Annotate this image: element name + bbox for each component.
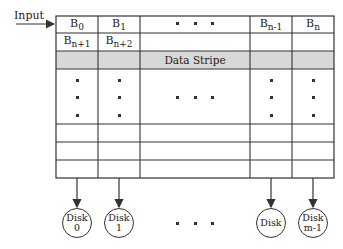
block-b1-sub: 1 [120,22,126,32]
block-bn: Bn [306,18,320,32]
block-b1: B1 [112,18,126,32]
disk-0: Disk0 [62,208,92,238]
block-b0-sub: 0 [78,22,84,32]
disk-n: Disk [256,208,286,238]
disk-n-label: Disk [260,218,281,228]
block-b0: B0 [70,18,84,32]
block-bn-sub: n [314,22,320,32]
block-bn-1-letter: B [260,17,268,30]
block-b1-letter: B [112,17,120,30]
block-bn+2: Bn+2 [105,35,132,49]
disk-1: Disk1 [104,208,134,238]
input-label: Input [14,10,44,21]
disk-1-index: 1 [116,223,122,233]
data-stripe-label: Data Stripe [164,55,225,66]
block-bn-letter: B [306,17,314,30]
block-bn+2-letter: B [105,34,113,47]
block-bn-1-sub: n-1 [268,22,283,32]
diagram-lines [0,0,343,249]
block-b0-letter: B [70,17,78,30]
block-bn-1: Bn-1 [260,18,283,32]
block-bn+1-sub: n+1 [72,39,91,49]
disk-m-1-index: m-1 [304,223,322,233]
disk-m-1: Diskm-1 [298,208,328,238]
block-bn+1-letter: B [63,34,71,47]
block-bn+2-sub: n+2 [114,39,133,49]
block-bn+1: Bn+1 [63,35,90,49]
disk-0-index: 0 [74,223,80,233]
